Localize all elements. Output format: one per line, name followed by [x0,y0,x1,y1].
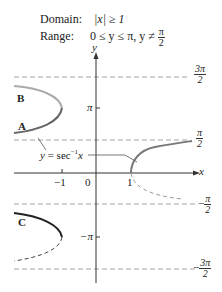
asymptote-label-neg-pi-2: −π2 [198,194,211,215]
y-axis-label: y [92,41,97,53]
tick-label-neg-pi: −π [80,230,93,242]
curve-label: y = y = secsec−1x [40,148,83,161]
curve-dashed-right [131,173,182,199]
branch-label-c: C [18,216,26,228]
y-axis-arrow-icon [94,52,99,59]
asymptote-label-3pi-2: 3π2 [194,64,206,85]
tick-label-1: 1 [127,176,133,188]
tick-label-0: 0 [85,176,91,188]
label-leader-line [88,155,137,162]
curve-branch-c-dashed [14,237,62,261]
graph-canvas [0,0,222,292]
branch-label-b: B [17,92,24,104]
curve-main-right [131,141,192,173]
asymptote-label-neg-3pi-2: −3π2 [193,258,211,279]
tick-label-neg1: −1 [54,176,66,188]
branch-label-a: A [18,120,26,132]
x-axis-label: x [199,165,204,177]
tick-label-pi: π [87,101,93,113]
asymptote-label-pi-2: π2 [196,128,203,149]
